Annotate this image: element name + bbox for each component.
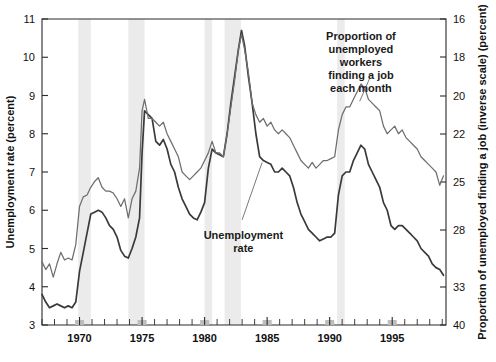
y-tick-label-right: 25 [453, 176, 465, 188]
job-finding-label: Proportion ofunemployedworkersfinding a … [326, 30, 396, 94]
y-tick-label-left: 3 [29, 319, 35, 331]
y-tick-label-left: 5 [29, 243, 35, 255]
y-tick-label-right: 28 [453, 224, 465, 236]
y-tick-label-right: 40 [453, 319, 465, 331]
y-axis-right-title: Proportion of unemployed finding a job (… [476, 4, 488, 340]
recession-band [78, 19, 91, 325]
x-tick-label: 1970 [67, 332, 91, 344]
y-tick-label-right: 33 [453, 281, 465, 293]
y-tick-label-left: 9 [29, 90, 35, 102]
y-tick-label-right: 16 [453, 13, 465, 25]
x-axis: 197019751980198519901995 [42, 317, 442, 344]
axes [42, 19, 446, 325]
y-axis-left: 34567891011Unemployment rate (percent) [4, 13, 48, 331]
plot-frame [42, 19, 446, 325]
y-tick-label-right: 20 [453, 90, 465, 102]
y-tick-label-left: 8 [29, 128, 35, 140]
y-tick-label-left: 6 [29, 204, 35, 216]
recession-band [225, 19, 241, 325]
y-tick-label-left: 10 [23, 51, 35, 63]
y-tick-label-right: 18 [453, 51, 465, 63]
x-tick-label: 1995 [380, 332, 404, 344]
y-axis-right: 1618202225283340Proportion of unemployed… [440, 4, 488, 340]
x-tick-label: 1990 [317, 332, 341, 344]
recession-bands [78, 19, 344, 325]
leader-unemployment-rate [242, 162, 262, 219]
y-axis-left-title: Unemployment rate (percent) [4, 95, 16, 248]
y-tick-label-left: 7 [29, 166, 35, 178]
x-tick-label: 1980 [192, 332, 216, 344]
x-tick-label: 1985 [255, 332, 279, 344]
unemployment-rate-label: Unemploymentrate [204, 229, 284, 254]
y-tick-label-left: 4 [29, 281, 35, 293]
y-tick-label-right: 22 [453, 128, 465, 140]
x-tick-label: 1975 [130, 332, 154, 344]
y-tick-label-left: 11 [24, 13, 35, 25]
unemployment-and-job-finding-chart: 34567891011Unemployment rate (percent)16… [0, 0, 496, 362]
chart-container: 34567891011Unemployment rate (percent)16… [0, 0, 496, 362]
